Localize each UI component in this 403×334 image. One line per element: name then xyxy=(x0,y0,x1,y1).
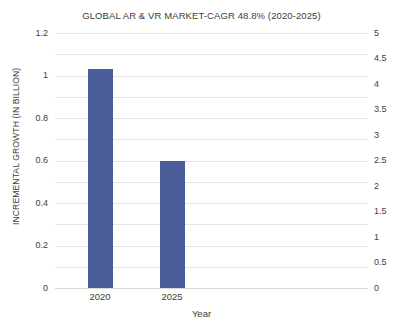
secondary-y-axis-tick-label: 3.5 xyxy=(374,105,402,114)
y-axis-tick-label: 1 xyxy=(12,71,48,80)
gridline xyxy=(55,54,368,55)
secondary-y-axis-tick-label: 2.5 xyxy=(374,156,402,165)
secondary-y-axis-tick-label: 1 xyxy=(374,233,402,242)
bar-2025[interactable] xyxy=(160,161,185,289)
axis-baseline xyxy=(55,288,368,289)
y-axis-tick-label: 1.2 xyxy=(12,29,48,38)
x-axis-tick-label-2025: 2025 xyxy=(142,292,202,302)
secondary-y-axis-tick-label: 3 xyxy=(374,131,402,140)
secondary-y-axis-tick-label: 5 xyxy=(374,29,402,38)
secondary-y-axis-tick-label: 2 xyxy=(374,182,402,191)
x-axis-title: Year xyxy=(0,308,403,319)
gridline xyxy=(55,33,368,34)
x-axis-tick-label-2020: 2020 xyxy=(70,292,130,302)
chart-title: GLOBAL AR & VR MARKET-CAGR 48.8% (2020-2… xyxy=(0,10,403,21)
secondary-y-axis-tick-label: 1.5 xyxy=(374,207,402,216)
y-axis-tick-label: 0.8 xyxy=(12,114,48,123)
chart-container: GLOBAL AR & VR MARKET-CAGR 48.8% (2020-2… xyxy=(0,0,403,334)
plot-area xyxy=(55,33,368,288)
y-axis-tick-label: 0.6 xyxy=(12,156,48,165)
secondary-y-axis-tick-label: 0.5 xyxy=(374,258,402,267)
secondary-y-axis-tick-label: 4 xyxy=(374,80,402,89)
secondary-y-axis-tick-label: 0 xyxy=(374,284,402,293)
y-axis-tick-label: 0.4 xyxy=(12,199,48,208)
y-axis-tick-label: 0.2 xyxy=(12,241,48,250)
secondary-y-axis-tick-label: 4.5 xyxy=(374,54,402,63)
bar-2020[interactable] xyxy=(88,69,113,288)
y-axis-tick-label: 0 xyxy=(12,284,48,293)
